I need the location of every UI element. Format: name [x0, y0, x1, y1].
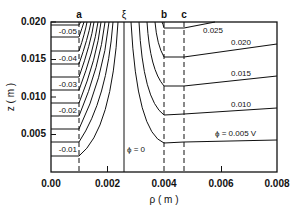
y-tick-0.015: 0.015 [21, 53, 46, 64]
contour-label--0.01: -0.01 [59, 145, 78, 154]
x-tick-0.008: 0.008 [264, 178, 289, 189]
negative-curved-contours [79, 22, 118, 156]
x-axis-title: ρ ( m ) [149, 194, 178, 205]
contour-plot: 0.005 0.010 0.015 0.020 0.00 0.002 0.004… [0, 0, 294, 213]
contour-label--0.03: -0.03 [59, 80, 78, 89]
x-tick-0.004: 0.004 [151, 178, 176, 189]
y-tick-0.010: 0.010 [21, 91, 46, 102]
y-tick-0.020: 0.020 [21, 16, 46, 27]
x-tick-0: 0.00 [41, 178, 61, 189]
contour-label--0.05: -0.05 [59, 27, 78, 36]
contour-label-0.005: ϕ = 0.005 V [215, 129, 257, 138]
contour-label-zero: ϕ = 0 [127, 145, 146, 154]
marker-label-a: a [76, 9, 82, 20]
x-tick-0.006: 0.006 [208, 178, 233, 189]
contour-label-0.025: 0.025 [203, 26, 224, 35]
x-tick-0.002: 0.002 [95, 178, 120, 189]
positive-curved-contours [131, 22, 164, 143]
contour-label-0.010: 0.010 [231, 100, 252, 109]
marker-label-b: b [161, 9, 167, 20]
contour-label--0.04: -0.04 [59, 54, 78, 63]
left-horizontal-contours [51, 25, 79, 156]
contour-label--0.02: -0.02 [59, 106, 78, 115]
marker-label-xi: ξ [122, 9, 127, 21]
right-contours [164, 22, 277, 143]
contour-label-0.020: 0.020 [231, 38, 252, 47]
marker-label-c: c [181, 9, 187, 20]
y-axis-title: z ( m ) [5, 83, 16, 111]
contour-label-0.015: 0.015 [231, 69, 252, 78]
y-tick-0.005: 0.005 [21, 128, 46, 139]
